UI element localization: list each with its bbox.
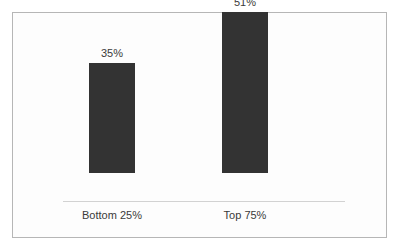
bar-value-label: 35% bbox=[89, 46, 135, 60]
plot-area: 35% 51% Bottom 25% Top 75% bbox=[13, 13, 386, 237]
category-axis-line bbox=[63, 201, 345, 202]
bar-group-bottom-25: 35% bbox=[89, 46, 135, 173]
bar-group-top-75: 51% bbox=[222, 0, 268, 173]
chart-frame: 35% 51% Bottom 25% Top 75% bbox=[12, 12, 387, 238]
bar-bottom-25[interactable] bbox=[89, 63, 135, 173]
category-label-bottom-25: Bottom 25% bbox=[47, 209, 177, 221]
category-label-top-75: Top 75% bbox=[180, 209, 310, 221]
bar-value-label: 51% bbox=[222, 0, 268, 9]
bar-top-75[interactable] bbox=[222, 12, 268, 173]
